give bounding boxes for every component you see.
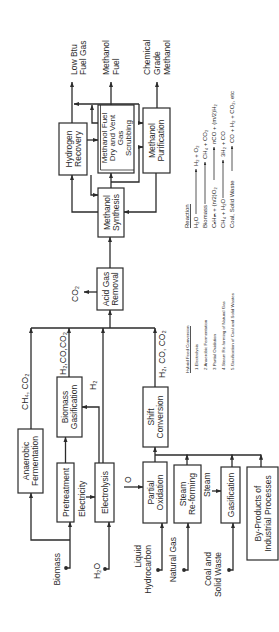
unit-partial-oxidation: Partial Oxidation xyxy=(143,462,167,523)
unit-label: Synthesis xyxy=(111,194,121,231)
stream-label-ch4-co2: CH₄, CO₂ xyxy=(20,373,30,410)
reaction-products: CO + H₂ + CO₂, etc xyxy=(229,91,235,143)
purge-gas-to-hydrogen-recovery xyxy=(72,175,98,212)
legend-item: 3 Partial Oxidation xyxy=(212,334,217,370)
reaction-reactants: Biomass xyxy=(202,205,208,228)
vent-gas-line xyxy=(92,105,98,123)
input-liquid-hydrocarbon: Liquid Hydrocarbon xyxy=(133,523,162,594)
hydrocarbon-to-partial-oxidation-arrow xyxy=(158,523,162,570)
reaction-reactants: CₙHₘ + (n/2)O₂ xyxy=(211,186,217,228)
unit-hydrogen-recovery: Hydrogen Recovery xyxy=(59,123,87,175)
unit-label: Gasification xyxy=(69,385,79,430)
unit-acid-gas-removal: Acid Gas Removal xyxy=(97,268,123,310)
output-label-methanol-fuel: Methanol xyxy=(101,40,111,75)
rotated-diagram: Hydrogen Recovery Methanol Fuel Dry and … xyxy=(18,39,278,597)
reaction-reactants: CH₄ + H₂O xyxy=(220,198,226,228)
input-label: Liquid xyxy=(133,545,143,568)
input-label: H₂O xyxy=(92,563,102,579)
stream-label-h2: H₂ xyxy=(88,381,98,390)
legend-item: 5.Gasification of Coal and Solid Wastes xyxy=(230,292,235,370)
unit-label: Conversion xyxy=(155,395,165,438)
unit-label: Fermentation xyxy=(30,436,40,486)
reaction-products: H₂ + O₂ xyxy=(193,145,199,166)
legend-hybrid-feed-conversion: Hybrid Feed Conversion 1.Electrolysis 2 … xyxy=(185,292,235,373)
unit-biomass-gasification: Biomass Gasification xyxy=(57,377,82,437)
input-natural-gas: Natural Gas xyxy=(168,523,188,582)
legend-reactions: Reaction H₂O H₂ + O₂ Biomass CH₄ + CO₂ C… xyxy=(184,91,235,228)
recovered-hydrogen-to-synthesis xyxy=(91,175,98,195)
unit-steam-reforming: Steam Re-forming xyxy=(174,465,201,523)
unit-label: Oxidation xyxy=(155,474,165,510)
unit-label: By-Products of xyxy=(253,485,263,541)
stream-label-electricity: Electricity xyxy=(77,480,87,517)
input-label: Coal and xyxy=(203,552,213,586)
unit-by-products: By-Products of Industrial Processes xyxy=(247,467,278,560)
output-label-chemical-methanol: Chemical xyxy=(142,39,152,75)
water-to-electrolysis-arrow xyxy=(105,522,109,569)
top-header-to-purification xyxy=(139,104,143,123)
unit-label: Re-forming xyxy=(187,473,197,515)
input-label: Biomass xyxy=(52,553,62,586)
reaction-products: 3H₂ + CO xyxy=(220,131,226,157)
input-coal-solid-waste: Coal and Solid Waste xyxy=(203,523,233,597)
legend-item: 4.Steam Re-forming of Natural Gas xyxy=(221,300,226,370)
stream-label-shift-syngas: H₂, CO, CO₂ xyxy=(157,330,167,378)
unit-label: Scrubbing xyxy=(124,120,133,156)
unit-label: Industrial Processes xyxy=(263,475,273,552)
input-label: Natural Gas xyxy=(168,537,178,582)
output-label-low-btu: Fuel Gas xyxy=(78,41,88,76)
methanol-process-flow-diagram: Hydrogen Recovery Methanol Fuel Dry and … xyxy=(0,0,279,632)
reaction-reactants: H₂O xyxy=(193,216,199,228)
reaction-reactants: Coal, Solid Waste xyxy=(229,180,235,228)
legend-title: Hybrid Feed Conversion xyxy=(185,325,190,373)
reaction-products: CH₄ + CO₂ xyxy=(202,129,208,159)
reaction-products: nCO + (m/2)H₂ xyxy=(211,103,217,144)
input-water: H₂O xyxy=(92,522,109,579)
unit-shift-conversion: Shift Conversion xyxy=(143,387,168,447)
unit-label: Removal xyxy=(110,272,120,306)
coal-to-gasification-arrow xyxy=(229,523,233,570)
unit-label: Hydrogen xyxy=(64,130,74,167)
stream-label-steam: Steam xyxy=(202,472,212,497)
unit-methanol-purification: Methanol Purification xyxy=(143,108,170,173)
stream-label-biomass-syngas: H₂,CO,CO₂ xyxy=(58,332,68,375)
input-label: Solid Waste xyxy=(213,552,223,597)
natural-gas-to-steam-reforming-arrow xyxy=(184,523,188,570)
stream-label-oxygen: O xyxy=(123,476,133,483)
stream-label-co2: CO₂ xyxy=(70,286,80,302)
legend-item: 1.Electrolysis xyxy=(194,343,199,370)
unit-methanol-fuel-scrubbing: Methanol Fuel Dry and Vent Gas Scrubbing xyxy=(98,105,134,173)
unit-gasification: Gasification xyxy=(221,467,240,523)
output-label-chemical-methanol: Methanol xyxy=(162,40,172,75)
input-label: Hydrocarbon xyxy=(143,545,153,594)
unit-pretreatment: Pretreatment xyxy=(57,463,74,522)
biomass-to-pretreatment-arrow xyxy=(66,522,70,568)
legend-title: Reaction xyxy=(184,204,190,228)
unit-label: Pretreatment xyxy=(61,467,71,517)
electrolysis-o2-to-biomass-gasification xyxy=(82,407,99,463)
unit-anaerobic-fermentation: Anaerobic Fermentation xyxy=(18,429,43,493)
purification-recycle-to-synthesis xyxy=(124,173,156,212)
legend-item: 2 Anaerobic Fermentation xyxy=(203,319,208,370)
unit-label: Recovery xyxy=(73,130,83,167)
unit-methanol-synthesis: Methanol Synthesis xyxy=(98,188,124,237)
output-label-methanol-fuel: Fuel xyxy=(111,58,121,75)
output-label-chemical-methanol: Grade xyxy=(152,51,162,75)
unit-label: Electrolysis xyxy=(100,471,110,514)
unit-electrolysis: Electrolysis xyxy=(95,463,114,522)
unit-label: Purification xyxy=(156,119,166,161)
unit-label: Gasification xyxy=(226,473,236,518)
